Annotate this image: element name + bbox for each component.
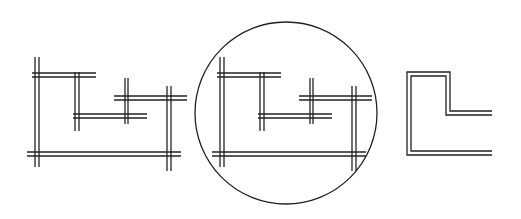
enclosing-circle — [195, 22, 377, 204]
circled-crossing-double-lines-figure — [195, 22, 377, 204]
diagram-canvas — [0, 0, 521, 219]
crossing-double-lines-figure — [27, 57, 187, 171]
l-shape-outline-figure — [407, 72, 492, 155]
